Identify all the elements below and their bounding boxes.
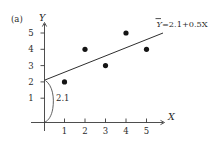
data-point	[82, 47, 87, 52]
y-tick-label-4: 4	[28, 44, 33, 54]
x-tick-label-2: 2	[82, 126, 87, 136]
y-tick-label-3: 3	[28, 61, 33, 71]
x-tick-label-4: 4	[123, 126, 128, 136]
x-tick-label-1: 1	[62, 126, 67, 136]
data-point	[103, 63, 108, 68]
regression-equation-label: Y =2.1+0.5X	[156, 19, 208, 29]
x-tick-label-3: 3	[103, 126, 108, 136]
y-tick-label-5: 5	[28, 28, 33, 38]
equation-body: =2.1+0.5X	[162, 19, 208, 29]
y-axis-title: Y	[39, 12, 47, 23]
x-tick-label-5: 5	[144, 126, 149, 136]
plot-canvas: (a) Y X 5 4 3 2 1 1 2 3 4 5 2.1 Y =2.1+0…	[0, 0, 222, 155]
data-point	[62, 79, 67, 84]
intercept-annotation: 2.1	[56, 93, 70, 103]
y-tick-label-2: 2	[28, 77, 33, 87]
regression-line	[45, 33, 164, 80]
data-point	[123, 30, 128, 35]
data-point	[144, 47, 149, 52]
intercept-brace-icon	[45, 81, 54, 123]
x-axis-title: X	[167, 111, 176, 122]
regression-figure: (a) Y X 5 4 3 2 1 1 2 3 4 5 2.1 Y =2.1+0…	[0, 0, 222, 155]
panel-label: (a)	[11, 14, 23, 24]
y-tick-label-1: 1	[28, 93, 33, 103]
